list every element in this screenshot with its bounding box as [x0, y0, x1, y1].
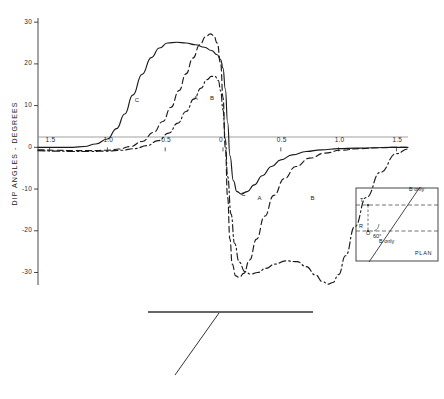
- y-tick-label--10: -10: [12, 185, 32, 192]
- curve-label-upper-A: A: [194, 95, 198, 101]
- section-sketch: [148, 312, 313, 375]
- inset-label-transmitter: T: [360, 197, 363, 203]
- x-tick-label-2: 0.5: [161, 136, 171, 143]
- curve-group: [38, 34, 408, 284]
- y-tick-group: [34, 22, 38, 272]
- x-tick-label-4: 0.5: [277, 136, 287, 143]
- x-tick-label-0: 1.5: [46, 136, 56, 143]
- x-tick-label-6: 1.5: [392, 136, 402, 143]
- y-tick-label-20: 20: [12, 59, 32, 66]
- inset-title-plan: PLAN: [415, 250, 432, 256]
- curve-A: [38, 34, 408, 278]
- curve-B: [38, 76, 408, 284]
- curve-label-upper-C: C: [135, 97, 139, 103]
- x-tick-label-1: 1.0: [103, 136, 113, 143]
- dip-angle-plot: [0, 0, 444, 399]
- figure-root: DIP ANGLES - DEGREES B only B only T R O…: [0, 0, 444, 399]
- y-tick-label--30: -30: [12, 268, 32, 275]
- x-tick-label-5: 1.0: [335, 136, 345, 143]
- curve-label-lower-C: C: [241, 191, 245, 197]
- x-tick-label-3: 0: [219, 136, 223, 143]
- curve-label-upper-B: B: [210, 95, 214, 101]
- inset-label-angle: 60°: [373, 233, 381, 239]
- y-tick-label-30: 30: [12, 18, 32, 25]
- curve-label-lower-B: B: [311, 195, 315, 201]
- inset-label-receiver: R: [359, 223, 363, 229]
- inset-label-origin: O: [366, 230, 370, 236]
- y-tick-label-10: 10: [12, 101, 32, 108]
- y-tick-label-0: 0: [12, 143, 32, 150]
- curve-label-lower-A: A: [257, 195, 261, 201]
- y-axis-title: DIP ANGLES - DEGREES: [11, 94, 18, 214]
- curve-C: [38, 42, 408, 194]
- inset-label-b-only-top: B only: [409, 186, 424, 192]
- y-tick-label--20: -20: [12, 226, 32, 233]
